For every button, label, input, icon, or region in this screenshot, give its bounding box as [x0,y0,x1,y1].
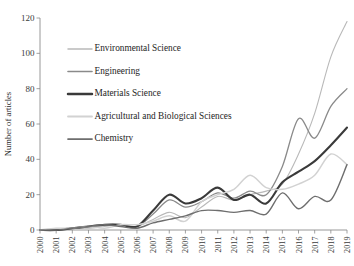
y-tick-label: 100 [21,48,35,58]
y-axis: 020406080100120 [21,13,40,235]
x-tick-label: 2010 [198,237,207,253]
y-tick-label: 20 [26,190,36,200]
x-tick-label: 2019 [343,237,352,253]
x-tick-label: 2008 [165,237,174,253]
x-tick-label: 2014 [262,237,271,253]
y-tick-label: 80 [26,84,36,94]
series-lines [40,22,347,231]
x-axis: 2000200120022003200420052006200720082009… [36,230,352,253]
x-tick-label: 2002 [68,237,77,253]
series-line-2 [40,128,347,231]
x-tick-label: 2016 [295,237,304,253]
chart-legend: Environmental ScienceEngineeringMaterial… [68,43,232,143]
line-chart: 020406080100120 200020012002200320042005… [0,0,354,266]
legend-label-0: Environmental Science [95,43,181,53]
x-tick-label: 2018 [327,237,336,253]
y-tick-label: 60 [26,119,36,129]
x-tick-label: 2001 [52,237,61,253]
legend-label-3: Agricultural and Biological Sciences [95,111,232,121]
x-tick-label: 2013 [246,237,255,253]
x-tick-label: 2005 [117,237,126,253]
x-tick-label: 2006 [133,237,142,253]
x-tick-label: 2012 [230,237,239,253]
y-tick-label: 40 [26,154,36,164]
legend-label-1: Engineering [95,66,141,76]
x-tick-label: 2011 [214,237,223,253]
y-axis-title: Number of articles [3,91,13,156]
x-tick-label: 2017 [311,237,320,253]
series-line-3 [40,154,347,230]
y-tick-label: 120 [21,13,35,23]
x-tick-label: 2007 [149,237,158,253]
x-tick-label: 2000 [36,237,45,253]
x-tick-label: 2015 [278,237,287,253]
series-line-0 [40,22,347,231]
legend-label-2: Materials Science [95,88,161,98]
x-tick-label: 2009 [181,237,190,253]
y-tick-label: 0 [30,225,35,235]
series-line-4 [40,165,347,230]
chart-canvas: 020406080100120 200020012002200320042005… [0,0,354,266]
x-tick-label: 2004 [101,237,110,253]
x-tick-label: 2003 [84,237,93,253]
legend-label-4: Chemistry [95,133,134,143]
